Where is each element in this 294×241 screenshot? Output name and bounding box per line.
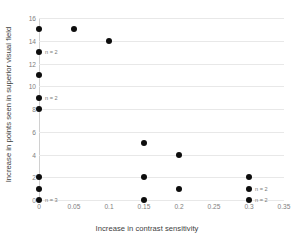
data-point (36, 95, 42, 101)
gridline (39, 64, 284, 65)
data-point-annotation: n = 2 (255, 186, 268, 192)
x-tick-label: 0.05 (68, 203, 81, 210)
data-point (141, 174, 147, 180)
data-point (246, 197, 252, 203)
data-point (36, 174, 42, 180)
data-point (36, 26, 42, 32)
gridline (39, 86, 284, 87)
x-axis-title-label: Increase in contrast sensitivity (96, 224, 199, 233)
data-point (36, 106, 42, 112)
gridline (39, 109, 284, 110)
data-point (36, 49, 42, 55)
y-tick-label: 10 (29, 83, 36, 90)
y-tick-label: 6 (32, 128, 36, 135)
data-point-annotation: n = 2 (45, 49, 58, 55)
data-point (141, 197, 147, 203)
y-tick-label: 12 (29, 60, 36, 67)
x-tick-label: 0 (37, 203, 41, 210)
x-tick-label: 0.25 (208, 203, 221, 210)
data-point (176, 186, 182, 192)
data-point-annotation: n = 3 (45, 197, 58, 203)
y-tick-label: 16 (29, 15, 36, 22)
y-axis-title: Increase in points seen in superior visu… (0, 0, 18, 208)
scatter-chart: Increase in points seen in superior visu… (0, 0, 294, 241)
plot-area: 0246810121416 00.050.10.150.20.250.30.35… (39, 18, 284, 200)
x-tick-label: 0.3 (244, 203, 253, 210)
data-point-annotation: n = 2 (255, 197, 268, 203)
y-tick-label: 14 (29, 37, 36, 44)
gridline (39, 155, 284, 156)
gridline (39, 41, 284, 42)
x-tick-label: 0.1 (104, 203, 113, 210)
y-tick-label: 4 (32, 151, 36, 158)
data-point (246, 186, 252, 192)
y-axis-title-label: Increase in points seen in superior visu… (5, 26, 14, 182)
data-point (176, 152, 182, 158)
x-tick-label: 0.2 (174, 203, 183, 210)
x-tick-label: 0.35 (278, 203, 291, 210)
data-point (36, 186, 42, 192)
gridline (39, 18, 284, 19)
data-point (36, 72, 42, 78)
gridline (39, 132, 284, 133)
data-point (106, 38, 112, 44)
x-tick-label: 0.15 (138, 203, 151, 210)
data-point (36, 197, 42, 203)
data-point (141, 140, 147, 146)
x-axis-title: Increase in contrast sensitivity (0, 224, 294, 233)
data-point (246, 174, 252, 180)
data-point (71, 26, 77, 32)
data-point-annotation: n = 2 (45, 95, 58, 101)
